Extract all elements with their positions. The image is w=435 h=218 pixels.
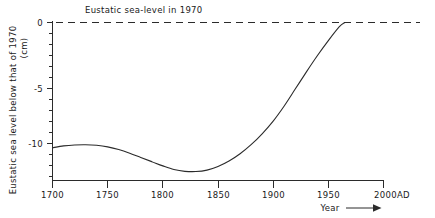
- x-tick-label-1850: 1850: [207, 190, 230, 200]
- y-tick-label-0: 0: [37, 18, 43, 28]
- x-tick-label-1800: 1800: [151, 190, 174, 200]
- year-arrow-icon: [346, 204, 382, 212]
- x-tick-label-1700: 1700: [41, 190, 64, 200]
- y-tick-label-minus10: -10: [28, 139, 43, 149]
- x-tick-label-1950: 1950: [317, 190, 340, 200]
- y-axis-units: (cm): [19, 38, 29, 59]
- x-tick-label-1900: 1900: [262, 190, 285, 200]
- sea-level-line-chart: 0 -5 -10 1700 1750 1800 1850 1900 1950 2…: [0, 0, 435, 218]
- x-tick-labels: 1700 1750 1800 1850 1900 1950 2000AD: [41, 190, 410, 200]
- x-tick-label-2000ad: 2000AD: [374, 190, 410, 200]
- y-tick-labels: 0 -5 -10: [28, 18, 43, 149]
- y-axis-minor-ticks: [49, 34, 53, 177]
- eustatic-reference-label: Eustatic sea-level in 1970: [85, 5, 203, 15]
- x-tick-label-1750: 1750: [96, 190, 119, 200]
- x-axis-title: Year: [319, 203, 339, 213]
- y-axis-major-ticks: [47, 23, 53, 144]
- y-tick-label-minus5: -5: [34, 84, 43, 94]
- eustatic-sea-level-curve: [53, 23, 345, 172]
- chart-figure: 0 -5 -10 1700 1750 1800 1850 1900 1950 2…: [0, 0, 435, 218]
- y-axis-title: Eustatic sea level below that of 1970: [8, 26, 18, 195]
- x-axis-major-ticks: [53, 181, 384, 188]
